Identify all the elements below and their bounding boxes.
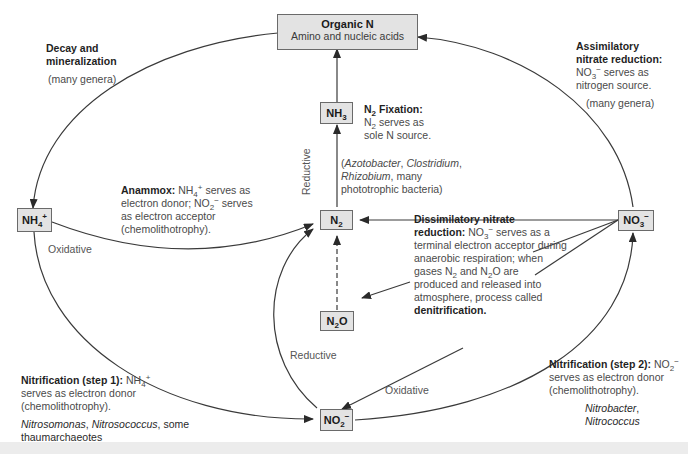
node-n2: N2 bbox=[320, 210, 353, 230]
annotation-assimilatory: Assimilatory nitrate reduction: NO3− ser… bbox=[576, 40, 662, 110]
annotation-fixation-organisms: (Azotobacter, Clostridium, Rhizobium, ma… bbox=[341, 157, 462, 196]
arrow-no2-n2 bbox=[274, 229, 317, 408]
annotation-dissimilatory: Dissimilatory nitrate reduction: NO3− se… bbox=[414, 213, 567, 317]
arrow-to-no2 bbox=[342, 348, 463, 409]
label-reductive-vertical: Reductive bbox=[300, 148, 312, 195]
node-organic-n: Organic N Amino and nucleic acids bbox=[277, 14, 418, 50]
organic-n-subtitle: Amino and nucleic acids bbox=[278, 30, 417, 42]
annotation-decay: Decay and mineralization (many genera) bbox=[46, 42, 117, 86]
node-no3: NO3− bbox=[618, 210, 654, 231]
annotation-anammox: Anammox: NH4+ serves as electron donor; … bbox=[121, 184, 253, 236]
label-reductive-bottom: Reductive bbox=[290, 349, 337, 361]
label-oxidative-left: Oxidative bbox=[48, 243, 92, 255]
node-nh3: NH3 bbox=[320, 102, 353, 124]
annotation-nitrification-1: Nitrification (step 1): NH4+ serves as e… bbox=[21, 374, 189, 444]
annotation-n2-fixation: N2 Fixation: N2 serves as sole N source. bbox=[364, 103, 431, 142]
node-nh4: NH4+ bbox=[17, 208, 52, 232]
label-oxidative-bottom: Oxidative bbox=[385, 384, 429, 396]
arrow-to-n2o bbox=[362, 282, 410, 298]
node-n2o: N2O bbox=[320, 311, 354, 331]
annotation-nitrification-2: Nitrification (step 2): NO2− serves as e… bbox=[549, 358, 679, 428]
node-no2: NO2− bbox=[320, 409, 353, 431]
organic-n-title: Organic N bbox=[278, 18, 417, 30]
